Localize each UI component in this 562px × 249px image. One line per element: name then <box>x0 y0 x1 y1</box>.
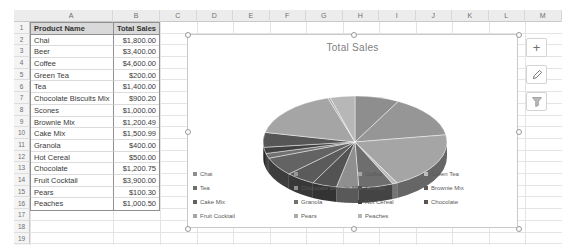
header-product-name[interactable]: Product Name <box>31 23 114 35</box>
selection-handle[interactable] <box>185 226 191 232</box>
cell-sales-pears[interactable]: $100.30 <box>114 187 159 199</box>
legend-item-pears[interactable]: Pears <box>294 212 317 219</box>
row-header-3[interactable]: 3 <box>14 45 30 57</box>
pie-slice-chai[interactable] <box>355 96 398 142</box>
row-header-11[interactable]: 11 <box>14 139 30 151</box>
column-header-d[interactable]: D <box>197 10 234 22</box>
cell-sales-chai[interactable]: $1,800.00 <box>114 35 159 47</box>
cell-product-granola[interactable]: Granola <box>31 140 114 152</box>
cell-sales-fruit-cocktail[interactable]: $3,900.00 <box>114 175 159 187</box>
chart-elements-button[interactable]: + <box>526 38 547 57</box>
cell-product-cake-mix[interactable]: Cake Mix <box>31 128 114 140</box>
row-header-6[interactable]: 6 <box>14 81 30 93</box>
cell-sales-chocolate[interactable]: $1,200.75 <box>114 163 159 175</box>
cell-product-chocolate-biscuits-mix[interactable]: Chocolate Biscuits Mix <box>31 93 114 105</box>
chart-title[interactable]: Total Sales <box>188 42 517 53</box>
cell-sales-peaches[interactable]: $1,000.50 <box>114 198 159 210</box>
cell-product-green-tea[interactable]: Green Tea <box>31 70 114 82</box>
column-header-k[interactable]: K <box>452 10 489 22</box>
cell-product-scones[interactable]: Scones <box>31 105 114 117</box>
cell-product-brownie-mix[interactable]: Brownie Mix <box>31 117 114 129</box>
cell-product-beer[interactable]: Beer <box>31 46 114 58</box>
cell-product-chocolate[interactable]: Chocolate <box>31 163 114 175</box>
column-header-c[interactable]: C <box>160 10 197 22</box>
selection-handle[interactable] <box>516 226 522 232</box>
pie-slice-granola[interactable] <box>266 142 355 158</box>
legend-item-chocolate[interactable]: Chocolate <box>424 198 458 205</box>
row-header-18[interactable]: 18 <box>14 221 30 233</box>
chart-styles-button[interactable] <box>526 65 547 84</box>
pie-chart-object[interactable]: Total Sales ChaiBeerCoffeeGreen TeaTeaCh… <box>187 34 518 228</box>
cell-product-chai[interactable]: Chai <box>31 35 114 47</box>
cell-sales-scones[interactable]: $1,000.00 <box>114 105 159 117</box>
legend-item-scones[interactable]: Scones <box>358 184 385 191</box>
row-header-10[interactable]: 10 <box>14 127 30 139</box>
row-header-15[interactable]: 15 <box>14 186 30 198</box>
selection-handle[interactable] <box>185 32 191 38</box>
row-header-8[interactable]: 8 <box>14 104 30 116</box>
cell-product-fruit-cocktail[interactable]: Fruit Cocktail <box>31 175 114 187</box>
pie-slice-chocolate-biscuits-mix[interactable] <box>336 142 358 188</box>
column-header-b[interactable]: B <box>113 10 160 22</box>
legend-item-coffee[interactable]: Coffee <box>358 170 383 177</box>
selection-handle[interactable] <box>516 32 522 38</box>
cell-product-hot-cereal[interactable]: Hot Cereal <box>31 152 114 164</box>
selection-handle[interactable] <box>351 32 357 38</box>
pie-slice-tea[interactable] <box>355 142 393 188</box>
legend-item-brownie-mix[interactable]: Brownie Mix <box>424 184 464 191</box>
row-header-14[interactable]: 14 <box>14 174 30 186</box>
row-header-17[interactable]: 17 <box>14 209 30 221</box>
cell-sales-cake-mix[interactable]: $1,500.99 <box>114 128 159 140</box>
pie-slice-fruit-cocktail[interactable] <box>265 98 355 142</box>
pie-slice-beer[interactable] <box>355 101 446 142</box>
column-header-i[interactable]: I <box>379 10 416 22</box>
column-header-e[interactable]: E <box>233 10 270 22</box>
column-header-l[interactable]: L <box>489 10 526 22</box>
row-header-1[interactable]: 1 <box>14 22 30 34</box>
header-total-sales[interactable]: Total Sales <box>114 23 159 35</box>
cell-product-pears[interactable]: Pears <box>31 187 114 199</box>
cell-sales-coffee[interactable]: $4,600.00 <box>114 58 159 70</box>
pie-slice-peaches[interactable] <box>330 96 355 142</box>
cell-sales-tea[interactable]: $1,400.00 <box>114 81 159 93</box>
legend-item-beer[interactable]: Beer <box>294 170 314 177</box>
cell-product-tea[interactable]: Tea <box>31 81 114 93</box>
column-header-a[interactable]: A <box>30 10 113 22</box>
selection-handle[interactable] <box>185 129 191 135</box>
cell-product-coffee[interactable]: Coffee <box>31 58 114 70</box>
cell-sales-granola[interactable]: $400.00 <box>114 140 159 152</box>
row-header-16[interactable]: 16 <box>14 198 30 210</box>
legend-item-cake-mix[interactable]: Cake Mix <box>193 198 225 205</box>
row-header-19[interactable]: 19 <box>14 233 30 245</box>
legend-item-granola[interactable]: Granola <box>294 198 322 205</box>
column-header-h[interactable]: H <box>343 10 380 22</box>
row-header-2[interactable]: 2 <box>14 34 30 46</box>
column-header-f[interactable]: F <box>270 10 307 22</box>
pie-slice-hot-cereal[interactable] <box>264 142 355 153</box>
legend-item-peaches[interactable]: Peaches <box>358 212 388 219</box>
row-header-5[interactable]: 5 <box>14 69 30 81</box>
column-header-m[interactable]: M <box>525 10 562 22</box>
row-header-13[interactable]: 13 <box>14 162 30 174</box>
cell-sales-beer[interactable]: $3,400.00 <box>114 46 159 58</box>
legend-item-green-tea[interactable]: Green Tea <box>424 170 459 177</box>
pie-slice-chocolate[interactable] <box>263 132 355 147</box>
row-header-9[interactable]: 9 <box>14 116 30 128</box>
selection-handle[interactable] <box>516 129 522 135</box>
legend-item-chocolate-biscuits-mix[interactable]: Chocolate Biscuits Mix <box>294 184 361 191</box>
cell-sales-green-tea[interactable]: $200.00 <box>114 70 159 82</box>
row-header-7[interactable]: 7 <box>14 92 30 104</box>
pie-slice-pears[interactable] <box>328 98 355 142</box>
legend-item-tea[interactable]: Tea <box>193 184 210 191</box>
cell-sales-hot-cereal[interactable]: $500.00 <box>114 152 159 164</box>
legend-item-hot-cereal[interactable]: Hot Cereal <box>358 198 394 205</box>
legend-item-fruit-cocktail[interactable]: Fruit Cocktail <box>193 212 235 219</box>
column-header-g[interactable]: G <box>306 10 343 22</box>
row-header-12[interactable]: 12 <box>14 151 30 163</box>
row-header-4[interactable]: 4 <box>14 57 30 69</box>
cell-product-peaches[interactable]: Peaches <box>31 198 114 210</box>
cell-sales-brownie-mix[interactable]: $1,200.49 <box>114 117 159 129</box>
legend-item-chai[interactable]: Chai <box>193 170 212 177</box>
pie-slice-scones[interactable] <box>313 142 355 187</box>
column-header-j[interactable]: J <box>416 10 453 22</box>
